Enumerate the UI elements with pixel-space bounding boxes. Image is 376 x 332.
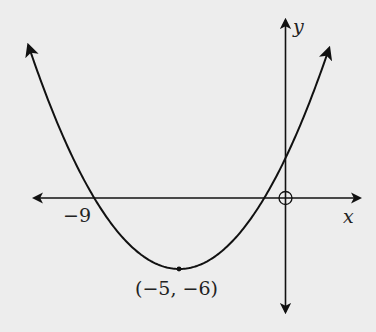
y-axis-label: y <box>293 15 304 37</box>
vertex-point <box>177 267 182 272</box>
root-left-label: −9 <box>63 204 91 226</box>
parabola-curve <box>28 45 329 269</box>
vertex-label: (−5, −6) <box>135 277 218 299</box>
x-axis-label: x <box>343 205 354 227</box>
graph: y x −9 (−5, −6) <box>0 0 376 332</box>
